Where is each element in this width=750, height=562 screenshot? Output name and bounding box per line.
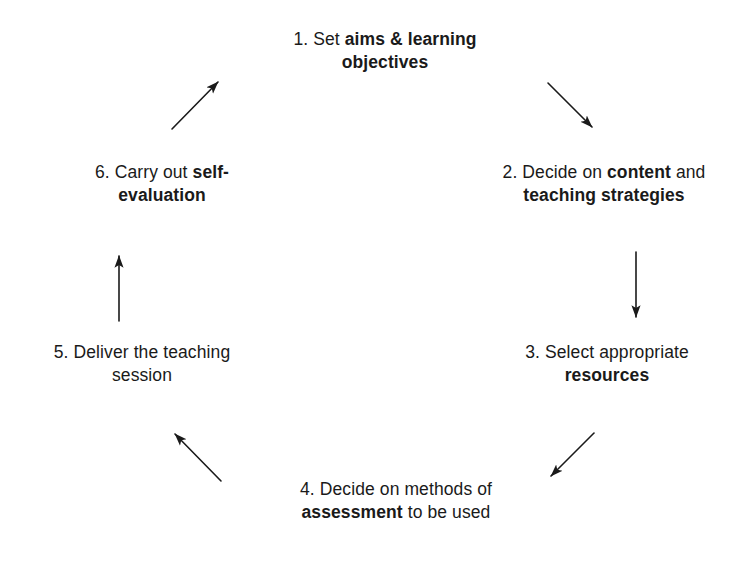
cycle-step-5: 5. Deliver the teaching session <box>18 341 266 388</box>
cycle-step-1-line-2: objectives <box>255 51 515 74</box>
cycle-step-2-line-2-bold: teaching strategies <box>523 185 684 205</box>
cycle-step-3-line-1-plain: 3. Select appropriate <box>525 342 689 362</box>
arrow-3-to-4-arrow-icon <box>551 433 594 476</box>
cycle-step-1: 1. Set aims & learning objectives <box>255 28 515 75</box>
cycle-step-5-line-2: session <box>18 364 266 387</box>
diagram-canvas: 1. Set aims & learning objectives 2. Dec… <box>0 0 750 562</box>
cycle-step-1-line-1-bold: aims & learning <box>345 29 477 49</box>
cycle-step-1-line-1-plain: 1. Set <box>293 29 344 49</box>
cycle-step-4-line-2-bold: assessment <box>302 502 403 522</box>
cycle-step-6-line-1: 6. Carry out self- <box>38 161 286 184</box>
cycle-step-3-line-2: resources <box>478 364 736 387</box>
cycle-step-2-line-1: 2. Decide on content and <box>468 161 740 184</box>
cycle-step-4-line-2-plain: to be used <box>403 502 491 522</box>
cycle-step-6-line-1-plain: 6. Carry out <box>95 162 193 182</box>
cycle-step-3-line-1: 3. Select appropriate <box>478 341 736 364</box>
cycle-step-3: 3. Select appropriate resources <box>478 341 736 388</box>
arrow-6-to-1-arrow-icon <box>172 82 218 129</box>
cycle-step-4-line-2: assessment to be used <box>252 501 540 524</box>
cycle-step-5-line-1-plain: 5. Deliver the teaching <box>54 342 230 362</box>
cycle-step-2-line-1-plain-a: 2. Decide on <box>503 162 607 182</box>
cycle-step-4-line-1: 4. Decide on methods of <box>252 478 540 501</box>
cycle-step-6-line-1-bold: self- <box>193 162 229 182</box>
cycle-step-1-line-1: 1. Set aims & learning <box>255 28 515 51</box>
arrow-1-to-2-arrow-icon <box>548 83 592 127</box>
cycle-step-6-line-2-bold: evaluation <box>118 185 206 205</box>
cycle-step-2-line-1-plain-b: and <box>671 162 705 182</box>
cycle-step-6: 6. Carry out self- evaluation <box>38 161 286 208</box>
cycle-step-5-line-1: 5. Deliver the teaching <box>18 341 266 364</box>
cycle-step-2: 2. Decide on content and teaching strate… <box>468 161 740 208</box>
cycle-step-2-line-1-bold: content <box>607 162 671 182</box>
cycle-step-4-line-1-plain: 4. Decide on methods of <box>300 479 492 499</box>
cycle-step-4: 4. Decide on methods of assessment to be… <box>252 478 540 525</box>
cycle-step-6-line-2: evaluation <box>38 184 286 207</box>
cycle-step-1-line-2-bold: objectives <box>342 52 429 72</box>
cycle-step-2-line-2: teaching strategies <box>468 184 740 207</box>
cycle-step-5-line-2-plain: session <box>112 365 172 385</box>
arrow-4-to-5-arrow-icon <box>175 434 221 481</box>
cycle-step-3-line-2-bold: resources <box>565 365 650 385</box>
